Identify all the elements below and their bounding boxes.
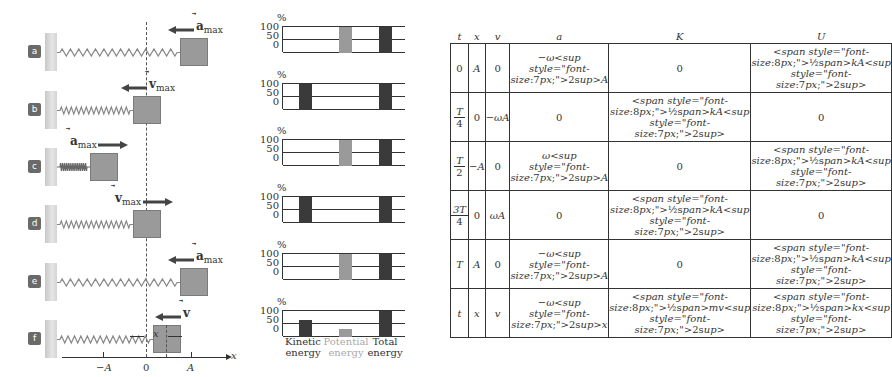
column-header-x: x bbox=[469, 30, 486, 44]
table-cell: 0 bbox=[751, 93, 891, 142]
table-row: T40−ωA0<span style="font-size:8px;">½spa… bbox=[451, 93, 892, 142]
bar-potential bbox=[339, 254, 352, 280]
block bbox=[133, 210, 161, 238]
table-cell: T bbox=[451, 240, 469, 289]
table-cell: <span style="font-size:8px;">½span>kA<su… bbox=[751, 142, 891, 191]
label-total: Total energy bbox=[363, 336, 407, 358]
table-cell: −ω<sup style="font-size:7px;">2sup>A bbox=[510, 44, 609, 93]
wall bbox=[45, 148, 57, 186]
panel-label: f bbox=[28, 332, 41, 345]
spring-icon bbox=[57, 49, 180, 56]
table-row: TA0−ω<sup style="font-size:7px;">2sup>A0… bbox=[451, 240, 892, 289]
table-cell: 3T4 bbox=[451, 191, 469, 240]
block bbox=[133, 96, 161, 124]
wall bbox=[45, 205, 57, 243]
panel-label: b bbox=[28, 103, 41, 116]
table-cell: <span style="font-size:8px;">½span>mv<su… bbox=[609, 289, 751, 338]
block bbox=[180, 38, 208, 66]
table-row: T2−A0ω<sup style="font-size:7px;">2sup>A… bbox=[451, 142, 892, 191]
equilibrium-line bbox=[146, 22, 147, 357]
tick-label-zero: 0 bbox=[143, 362, 149, 373]
table-cell: 0 bbox=[485, 44, 510, 93]
table-cell: 0 bbox=[510, 93, 609, 142]
table-cell: −A bbox=[469, 142, 486, 191]
vector-label: a⃗max bbox=[196, 249, 223, 265]
vector-label: v⃗max bbox=[149, 77, 175, 93]
spring-icon bbox=[57, 279, 180, 286]
table-cell: ωA bbox=[485, 191, 510, 240]
ytick-0: 0 bbox=[257, 209, 279, 220]
table-cell: −ωA bbox=[485, 93, 510, 142]
table-cell: <span style="font-size:8px;">½span>kA<su… bbox=[751, 240, 891, 289]
table-cell: 0 bbox=[751, 191, 891, 240]
bar-potential bbox=[339, 140, 352, 166]
bar-total bbox=[379, 27, 392, 53]
column-header-K: K bbox=[609, 30, 751, 44]
table-cell: 0 bbox=[469, 191, 486, 240]
table-cell: ω<sup style="font-size:7px;">2sup>A bbox=[510, 142, 609, 191]
spring-icon bbox=[57, 107, 133, 114]
panel-label: e bbox=[28, 275, 41, 288]
ytick-0: 0 bbox=[257, 96, 279, 107]
table-cell: A bbox=[469, 44, 486, 93]
table-cell: 0 bbox=[609, 44, 751, 93]
bar-total bbox=[379, 254, 392, 280]
arrow-left-icon bbox=[155, 313, 181, 321]
chart-area bbox=[282, 26, 405, 52]
table-cell: <span style="font-size:8px;">½span>kA<su… bbox=[751, 44, 891, 93]
displacement-marker bbox=[166, 325, 167, 357]
bar-kinetic bbox=[299, 320, 312, 337]
panel-label: c bbox=[28, 160, 41, 173]
chart-area bbox=[282, 253, 405, 279]
label-kinetic: Kinetic energy bbox=[281, 336, 325, 358]
arrow-left-icon bbox=[121, 84, 147, 92]
table-row: txv−ω<sup style="font-size:7px;">2sup>x<… bbox=[451, 289, 892, 338]
panel-label: d bbox=[28, 217, 41, 230]
vector-label: a⃗max bbox=[70, 134, 97, 150]
wall bbox=[45, 263, 57, 301]
tick-label-a: A bbox=[187, 362, 194, 373]
arrow-right-icon bbox=[98, 141, 128, 149]
bar-total bbox=[379, 140, 392, 166]
bar-total bbox=[379, 84, 392, 110]
column-header-t: t bbox=[451, 30, 469, 44]
table-cell: −ω<sup style="font-size:7px;">2sup>A bbox=[510, 240, 609, 289]
motion-table: txvaKU 0A0−ω<sup style="font-size:7px;">… bbox=[450, 30, 892, 338]
table-cell: −ω<sup style="font-size:7px;">2sup>x bbox=[510, 289, 609, 338]
chart-area bbox=[282, 139, 405, 165]
table-cell: x bbox=[469, 289, 486, 338]
table-cell: v bbox=[485, 289, 510, 338]
tick-label-neg-a: −A bbox=[96, 362, 112, 373]
spring-icon bbox=[57, 163, 90, 171]
table-cell: t bbox=[451, 289, 469, 338]
table-row: 3T40ωA0<span style="font-size:8px;">½spa… bbox=[451, 191, 892, 240]
block bbox=[180, 268, 208, 296]
table-cell: 0 bbox=[609, 240, 751, 289]
vector-label: v⃗ bbox=[183, 306, 190, 322]
column-header-U: U bbox=[751, 30, 891, 44]
table-cell: <span style="font-size:8px;">½span>kx<su… bbox=[751, 289, 891, 338]
displacement-arrow-left bbox=[130, 336, 144, 337]
table-cell: A bbox=[469, 240, 486, 289]
displacement-label: x bbox=[153, 328, 159, 339]
table-row: 0A0−ω<sup style="font-size:7px;">2sup>A0… bbox=[451, 44, 892, 93]
table-cell: <span style="font-size:8px;">½span>kA<su… bbox=[609, 93, 751, 142]
bar-kinetic bbox=[299, 197, 312, 223]
wall bbox=[45, 320, 57, 358]
column-header-v: v bbox=[485, 30, 510, 44]
chart-area bbox=[282, 310, 405, 336]
panel-label: a bbox=[28, 45, 41, 58]
ytick-0: 0 bbox=[257, 323, 279, 334]
table-header-row: txvaKU bbox=[451, 30, 892, 44]
table-cell: 0 bbox=[451, 44, 469, 93]
ytick-0: 0 bbox=[257, 152, 279, 163]
block bbox=[90, 153, 118, 181]
ytick-0: 0 bbox=[257, 39, 279, 50]
table-cell: 0 bbox=[609, 142, 751, 191]
table-body: 0A0−ω<sup style="font-size:7px;">2sup>A0… bbox=[451, 44, 892, 338]
column-header-a: a bbox=[510, 30, 609, 44]
table-cell: 0 bbox=[485, 240, 510, 289]
wall bbox=[45, 91, 57, 129]
bar-potential bbox=[339, 27, 352, 53]
bar-total bbox=[379, 311, 392, 337]
